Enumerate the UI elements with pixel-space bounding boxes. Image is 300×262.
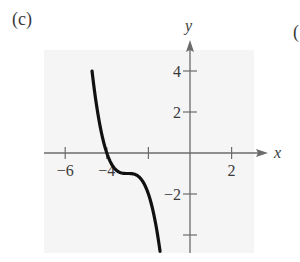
x-tick-label: −6: [57, 162, 74, 179]
y-axis-label: y: [183, 17, 193, 35]
y-tick-label: 2: [173, 104, 181, 121]
plot-background: [44, 50, 254, 253]
chart-plot: −6−4242−2 x y: [0, 0, 300, 262]
x-axis-label: x: [273, 144, 281, 161]
y-tick-label: −2: [164, 186, 181, 203]
x-tick-label: 2: [228, 162, 236, 179]
y-tick-label: 4: [173, 63, 181, 80]
